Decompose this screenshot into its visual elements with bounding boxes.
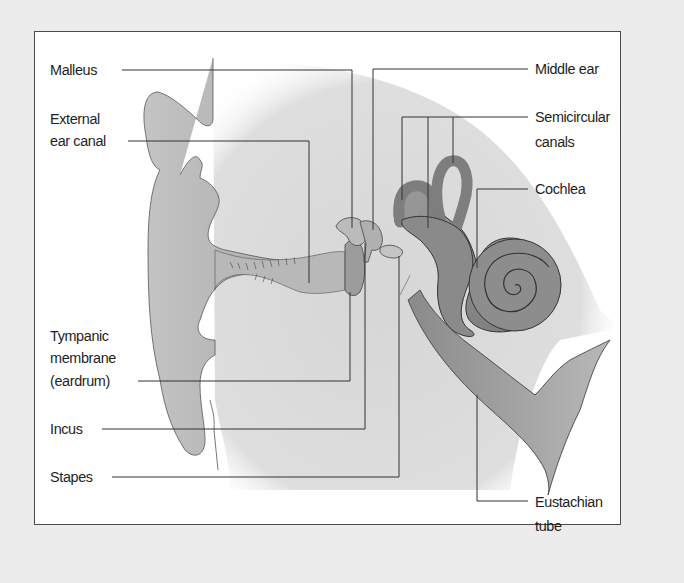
label-cochlea: Cochlea: [535, 180, 585, 198]
label-tympanic-membrane-line-2: membrane: [50, 349, 116, 367]
label-external-ear-canal-line-2: ear canal: [50, 132, 106, 150]
label-semicircular-canals-line-1: Semicircular: [535, 108, 610, 126]
label-tympanic-membrane-line-3: (eardrum): [50, 372, 110, 390]
cochlea: [469, 239, 561, 331]
tympanic-membrane: [345, 240, 365, 296]
label-tympanic-membrane-line-1: Tympanic: [50, 327, 109, 345]
label-external-ear-canal-line-1: External: [50, 110, 100, 128]
label-stapes: Stapes: [50, 468, 93, 486]
label-malleus: Malleus: [50, 61, 97, 79]
label-incus: Incus: [50, 420, 83, 438]
label-eustachian-tube-line-1: Eustachian: [535, 493, 603, 511]
label-eustachian-tube-line-2: tube: [535, 517, 562, 535]
neck-contour: [210, 400, 218, 470]
ear-anatomy-diagram: Malleus External ear canal Tympanic memb…: [0, 0, 684, 583]
label-middle-ear: Middle ear: [535, 60, 599, 78]
label-semicircular-canals-line-2: canals: [535, 133, 574, 151]
